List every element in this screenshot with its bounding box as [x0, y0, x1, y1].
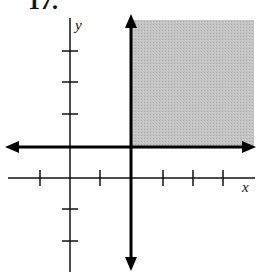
shaded-region — [131, 20, 254, 147]
y-axis-label: y — [75, 17, 82, 34]
coordinate-plane — [0, 0, 265, 272]
graph-figure: 17. — [0, 0, 265, 272]
x-axis-label: x — [242, 179, 249, 196]
arrow-down-icon — [125, 257, 137, 271]
arrow-left-icon — [5, 141, 19, 153]
y-axis — [62, 18, 78, 272]
